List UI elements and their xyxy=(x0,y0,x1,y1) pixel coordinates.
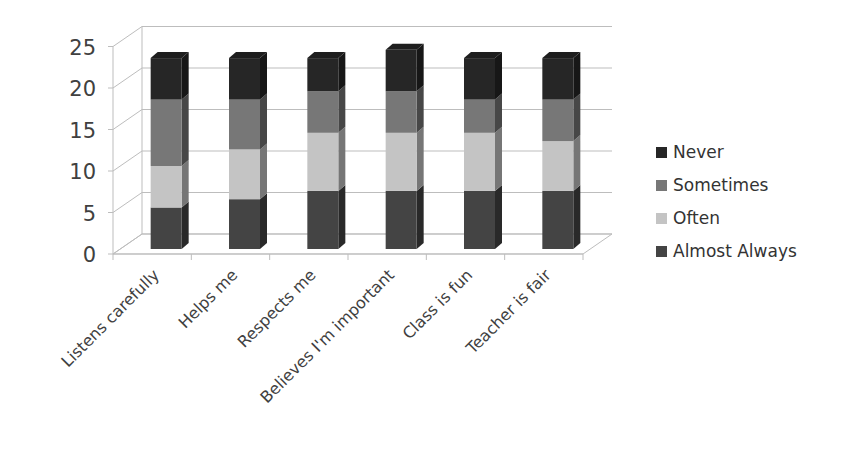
legend-item: Never xyxy=(656,142,724,162)
bar-side-sometimes xyxy=(338,85,345,133)
bar-side-never xyxy=(573,52,580,100)
bar-segment-sometimes xyxy=(307,91,338,133)
bar-segment-almost-always xyxy=(151,208,182,250)
bar-segment-often xyxy=(386,133,417,191)
bar-side-never xyxy=(495,52,502,100)
bar-stack xyxy=(464,52,502,249)
bar-segment-almost-always xyxy=(307,191,338,249)
x-tick-label: Listens carefully xyxy=(58,265,163,370)
side-gridline xyxy=(113,68,142,88)
bar-stack xyxy=(307,52,345,249)
side-gridline xyxy=(113,27,142,47)
legend-swatch xyxy=(656,246,667,257)
bar-segment-almost-always xyxy=(542,191,573,249)
bar-side-almost-always xyxy=(417,185,424,249)
x-tick-label: Believes I'm important xyxy=(256,265,398,407)
legend-item: Sometimes xyxy=(656,175,769,195)
bar-side-almost-always xyxy=(338,185,345,249)
bar-side-almost-always xyxy=(573,185,580,249)
x-tick-label: Helps me xyxy=(175,265,242,332)
side-gridline xyxy=(113,151,142,171)
legend-swatch xyxy=(656,147,667,158)
bar-segment-often xyxy=(151,166,182,208)
bar-side-sometimes xyxy=(495,94,502,133)
bar-side-almost-always xyxy=(495,185,502,249)
bar-segment-sometimes xyxy=(464,100,495,133)
y-tick-label: 20 xyxy=(69,77,96,101)
bar-stack xyxy=(229,52,267,249)
legend-item: Almost Always xyxy=(656,241,797,261)
bar-side-sometimes xyxy=(182,94,189,166)
bar-segment-almost-always xyxy=(386,191,417,249)
legend-label: Sometimes xyxy=(673,175,769,195)
bar-side-often xyxy=(495,127,502,191)
bar-segment-never xyxy=(542,58,573,100)
x-tick-label: Class is fun xyxy=(399,265,477,343)
legend-item: Often xyxy=(656,208,720,228)
bar-side-never xyxy=(260,52,267,100)
bar-segment-never xyxy=(151,58,182,100)
bar-side-almost-always xyxy=(260,193,267,249)
bar-side-often xyxy=(573,135,580,191)
bar-segment-never xyxy=(229,58,260,100)
bar-side-never xyxy=(417,44,424,92)
side-gridline xyxy=(113,193,142,213)
bar-segment-sometimes xyxy=(542,100,573,142)
bar-side-often xyxy=(338,127,345,191)
bar-segment-often xyxy=(464,133,495,191)
bar-segment-almost-always xyxy=(229,199,260,249)
bars xyxy=(151,44,581,249)
bar-segment-almost-always xyxy=(464,191,495,249)
bar-stack xyxy=(386,44,424,249)
y-tick-label: 0 xyxy=(83,243,96,267)
legend: NeverSometimesOftenAlmost Always xyxy=(656,142,797,261)
bar-side-almost-always xyxy=(182,202,189,250)
legend-swatch xyxy=(656,213,667,224)
bar-segment-sometimes xyxy=(151,100,182,166)
legend-label: Almost Always xyxy=(673,241,797,261)
bar-segment-often xyxy=(229,149,260,199)
x-axis: Listens carefullyHelps meRespects meBeli… xyxy=(58,254,583,407)
bar-segment-never xyxy=(386,50,417,92)
bar-side-never xyxy=(338,52,345,91)
legend-swatch xyxy=(656,180,667,191)
bar-segment-often xyxy=(307,133,338,191)
y-tick-label: 15 xyxy=(69,119,96,143)
bar-segment-sometimes xyxy=(229,100,260,150)
bar-side-sometimes xyxy=(417,85,424,133)
bar-side-sometimes xyxy=(573,94,580,142)
bar-segment-never xyxy=(307,58,338,91)
legend-label: Often xyxy=(673,208,720,228)
y-axis: 0510152025 xyxy=(69,36,113,268)
bar-segment-never xyxy=(464,58,495,100)
bar-side-sometimes xyxy=(260,94,267,150)
bar-side-often xyxy=(182,160,189,208)
y-tick-label: 10 xyxy=(69,160,96,184)
bar-stack xyxy=(542,52,580,249)
x-tick-label: Respects me xyxy=(234,265,320,351)
y-tick-label: 25 xyxy=(69,36,96,60)
side-gridline xyxy=(113,110,142,130)
bar-side-never xyxy=(182,52,189,100)
legend-label: Never xyxy=(673,142,724,162)
stacked-bar-chart: 0510152025 Listens carefullyHelps meResp… xyxy=(0,0,854,460)
bar-segment-often xyxy=(542,141,573,191)
bar-stack xyxy=(151,52,189,249)
bar-side-often xyxy=(260,143,267,199)
bar-side-often xyxy=(417,127,424,191)
bar-segment-sometimes xyxy=(386,91,417,133)
y-tick-label: 5 xyxy=(83,202,96,226)
